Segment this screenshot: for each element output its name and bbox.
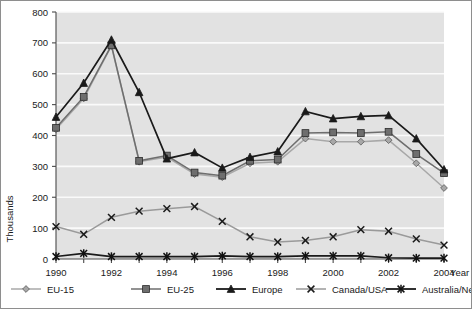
legend-item-europe[interactable]: Europe (216, 284, 283, 295)
chart-figure: 0100200300400500600700800Thousands199019… (0, 0, 472, 309)
y-axis-tick-label: 500 (32, 99, 48, 110)
y-axis-tick-label: 700 (32, 37, 48, 48)
line-chart: 0100200300400500600700800Thousands199019… (1, 1, 471, 308)
legend-label: EU-25 (167, 284, 194, 295)
data-point (302, 130, 309, 137)
data-point (191, 169, 198, 176)
x-axis-tick-label: 2000 (323, 267, 344, 278)
data-point (274, 156, 281, 163)
x-axis-tick-label: 1996 (212, 267, 233, 278)
data-point (219, 172, 226, 179)
legend-item-eu-25[interactable]: EU-25 (131, 284, 194, 295)
x-axis-tick-label: 2002 (378, 267, 399, 278)
x-axis-tick-label: 1992 (101, 267, 122, 278)
x-axis-title: Year (450, 267, 469, 278)
legend-marker (23, 286, 30, 293)
y-axis-tick-label: 300 (32, 161, 48, 172)
data-point (53, 124, 60, 131)
y-axis: 0100200300400500600700800 (32, 7, 56, 265)
legend-label: Canada/USA (332, 284, 388, 295)
legend-item-eu-15[interactable]: EU-15 (11, 284, 74, 295)
legend-label: Australia/New Zealand (422, 284, 471, 295)
y-axis-tick-label: 600 (32, 68, 48, 79)
y-axis-tick-label: 800 (32, 7, 48, 18)
data-point (80, 94, 87, 101)
legend-label: EU-15 (47, 284, 74, 295)
data-point (136, 157, 143, 164)
y-axis-tick-label: 100 (32, 223, 48, 234)
legend-label: Europe (252, 284, 283, 295)
y-axis-tick-label: 400 (32, 130, 48, 141)
data-point (413, 151, 420, 158)
data-point (357, 130, 364, 137)
y-axis-tick-label: 0 (43, 254, 48, 265)
data-point (330, 129, 337, 136)
y-axis-title: Thousands (4, 195, 15, 242)
legend-item-canada-usa[interactable]: Canada/USA (296, 284, 388, 295)
legend-marker (143, 286, 150, 293)
x-axis-tick-label: 1994 (156, 267, 177, 278)
data-point (385, 128, 392, 135)
legend-item-australia-new-zealand[interactable]: Australia/New Zealand (386, 284, 471, 295)
x-axis-tick-label: 1998 (267, 267, 288, 278)
legend: EU-15EU-25EuropeCanada/USAAustralia/New … (11, 284, 471, 295)
x-axis: 19901992199419961998200020022004 (45, 259, 454, 278)
y-axis-tick-label: 200 (32, 192, 48, 203)
x-axis-tick-label: 1990 (45, 267, 66, 278)
